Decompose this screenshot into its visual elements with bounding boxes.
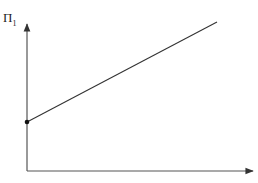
intercept-dot xyxy=(25,120,30,125)
chart: Π1 xyxy=(0,0,258,183)
data-line xyxy=(27,22,217,122)
plot-area xyxy=(0,0,258,183)
y-axis-label: Π1 xyxy=(3,10,16,28)
